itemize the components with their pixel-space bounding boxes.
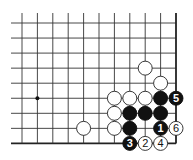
white-stone-icon — [107, 121, 121, 135]
white-stone-icon — [138, 91, 152, 105]
move-number: 4 — [158, 137, 164, 149]
board-grid — [11, 13, 176, 143]
white-stone-6: 6 — [169, 121, 183, 135]
white-stone-icon — [107, 91, 121, 105]
white-stone-icon — [154, 76, 168, 90]
move-number: 6 — [173, 122, 179, 134]
go-board-diagram: 516324 — [0, 0, 193, 160]
white-stone-icon — [77, 121, 91, 135]
black-stone-icon — [123, 121, 137, 135]
white-stone — [107, 121, 121, 135]
black-stone-3: 3 — [123, 136, 137, 150]
white-stone-icon — [107, 106, 121, 120]
black-stone — [123, 121, 137, 135]
white-stone — [154, 76, 168, 90]
white-stone-2: 2 — [138, 136, 152, 150]
move-number: 2 — [142, 137, 148, 149]
black-stone-1: 1 — [154, 121, 168, 135]
black-stone — [154, 91, 168, 105]
white-stone — [77, 121, 91, 135]
black-stone-5: 5 — [169, 91, 183, 105]
black-stone-icon — [154, 91, 168, 105]
move-number: 3 — [127, 137, 133, 149]
white-stone-icon — [138, 61, 152, 75]
black-stone-icon — [138, 106, 152, 120]
black-stone — [154, 106, 168, 120]
black-stone — [123, 106, 137, 120]
white-stone-4: 4 — [154, 136, 168, 150]
white-stone — [123, 91, 137, 105]
black-stone-icon — [154, 106, 168, 120]
move-number: 1 — [158, 122, 164, 134]
white-stone-icon — [123, 91, 137, 105]
white-stone — [107, 106, 121, 120]
black-stone-icon — [123, 106, 137, 120]
star-points — [35, 96, 39, 100]
white-stone — [138, 61, 152, 75]
white-stone — [107, 91, 121, 105]
move-number: 5 — [173, 92, 179, 104]
white-stone — [138, 91, 152, 105]
black-stone — [138, 106, 152, 120]
star-point — [35, 96, 39, 100]
